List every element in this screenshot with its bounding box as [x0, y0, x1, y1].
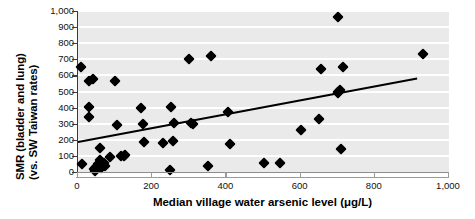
y-tick-mark — [72, 75, 77, 76]
trend-line — [78, 77, 418, 142]
y-tick-label: 800 — [40, 38, 74, 48]
gridline — [78, 91, 449, 93]
y-tick-mark — [72, 108, 77, 109]
data-point — [315, 63, 326, 74]
y-tick-label: 900 — [40, 22, 74, 32]
x-tick-mark — [151, 172, 152, 178]
y-tick-label: 600 — [40, 70, 74, 80]
data-point — [184, 54, 195, 65]
scatter-plot-figure: SMR (bladder and lung) (vs. SW Taiwan ra… — [0, 0, 475, 219]
x-axis-line — [76, 172, 449, 173]
gridline — [78, 123, 449, 125]
x-tick-mark — [300, 172, 301, 178]
data-point — [83, 112, 94, 123]
data-point — [164, 165, 175, 176]
data-point — [94, 143, 105, 154]
y-axis-title-line-1: SMR (bladder and lung) — [14, 53, 26, 180]
gridline — [78, 26, 449, 28]
y-tick-mark — [72, 27, 77, 28]
x-tick-mark — [225, 172, 226, 178]
gridline — [78, 139, 449, 141]
data-point — [332, 12, 343, 23]
y-tick-label: 500 — [40, 87, 74, 97]
data-point — [295, 124, 306, 135]
x-tick-label: 200 — [143, 180, 159, 191]
y-tick-mark — [72, 156, 77, 157]
data-point — [109, 75, 120, 86]
y-tick-mark — [72, 124, 77, 125]
data-point — [166, 101, 177, 112]
y-tick-mark — [72, 11, 77, 12]
data-point — [138, 136, 149, 147]
gridline — [78, 58, 449, 60]
data-point — [275, 157, 286, 168]
y-tick-mark — [72, 43, 77, 44]
plot-area — [77, 11, 449, 172]
data-point — [258, 157, 269, 168]
x-tick-label: 400 — [217, 180, 233, 191]
x-tick-label: 600 — [292, 180, 308, 191]
x-tick-mark — [448, 172, 449, 178]
x-tick-label: 800 — [366, 180, 382, 191]
data-point — [336, 144, 347, 155]
gridline — [78, 74, 449, 76]
data-point — [167, 136, 178, 147]
x-tick-mark — [77, 172, 78, 178]
y-tick-mark — [72, 59, 77, 60]
y-tick-label: 1,000 — [40, 6, 74, 16]
y-tick-mark — [72, 92, 77, 93]
data-point — [76, 159, 87, 170]
y-tick-label: 300 — [40, 119, 74, 129]
x-tick-label: 0 — [74, 180, 79, 191]
data-point — [202, 160, 213, 171]
x-tick-mark — [374, 172, 375, 178]
data-point — [111, 120, 122, 131]
data-point — [338, 61, 349, 72]
data-point — [75, 61, 86, 72]
x-axis-line-secondary — [76, 177, 449, 178]
gridline — [78, 10, 449, 12]
y-tick-label: 400 — [40, 103, 74, 113]
y-axis-tick-labels: 01002003004005006007008009001,000 — [38, 0, 74, 185]
x-axis-title: Median village water arsenic level (μg/L… — [77, 196, 448, 208]
y-tick-label: 700 — [40, 54, 74, 64]
y-tick-label: 0 — [40, 167, 74, 177]
y-tick-mark — [72, 140, 77, 141]
data-point — [135, 103, 146, 114]
y-axis-title: SMR (bladder and lung) (vs. SW Taiwan ra… — [0, 0, 40, 185]
gridline — [78, 42, 449, 44]
y-tick-label: 200 — [40, 135, 74, 145]
y-tick-label: 100 — [40, 151, 74, 161]
x-tick-label: 1,000 — [436, 180, 460, 191]
